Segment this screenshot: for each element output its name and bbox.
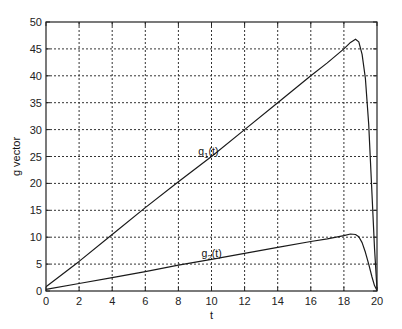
x-tick-label: 6 bbox=[142, 295, 148, 307]
y-tick-label: 5 bbox=[36, 258, 42, 270]
y-tick-label: 0 bbox=[36, 285, 42, 297]
x-tick-labels: 02468101214161820 bbox=[43, 295, 383, 307]
y-tick-label: 45 bbox=[30, 43, 42, 55]
x-axis-label: t bbox=[210, 309, 213, 321]
x-tick-label: 18 bbox=[338, 295, 350, 307]
y-tick-label: 30 bbox=[30, 124, 42, 136]
x-tick-label: 4 bbox=[109, 295, 115, 307]
y-tick-labels: 05101520253035404550 bbox=[30, 16, 42, 297]
annotation-g1: g1(t) bbox=[198, 145, 218, 160]
y-tick-label: 15 bbox=[30, 204, 42, 216]
curve-annotations: g1(t)g2(t) bbox=[198, 145, 222, 262]
x-tick-label: 10 bbox=[205, 295, 217, 307]
x-tick-label: 12 bbox=[238, 295, 250, 307]
y-tick-label: 25 bbox=[30, 151, 42, 163]
x-tick-label: 20 bbox=[371, 295, 383, 307]
y-tick-label: 10 bbox=[30, 231, 42, 243]
x-tick-label: 2 bbox=[76, 295, 82, 307]
x-tick-label: 8 bbox=[175, 295, 181, 307]
y-tick-label: 20 bbox=[30, 177, 42, 189]
x-tick-label: 0 bbox=[43, 295, 49, 307]
x-tick-label: 14 bbox=[272, 295, 284, 307]
x-tick-label: 16 bbox=[305, 295, 317, 307]
y-tick-label: 50 bbox=[30, 16, 42, 28]
y-tick-label: 35 bbox=[30, 97, 42, 109]
y-tick-label: 40 bbox=[30, 70, 42, 82]
y-axis-label: g vector bbox=[10, 137, 22, 176]
annotation-g2: g2(t) bbox=[202, 247, 222, 262]
line-chart: 02468101214161820 05101520253035404550 g… bbox=[0, 0, 402, 329]
